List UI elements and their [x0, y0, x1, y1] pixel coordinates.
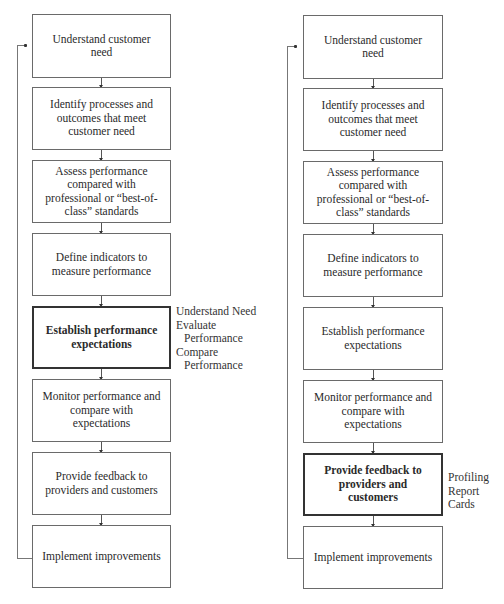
- right-feedback-loop-bottom: [287, 558, 303, 559]
- arrow-down-icon: [373, 79, 374, 88]
- right-feedback-loop-line: [287, 46, 288, 559]
- right-annotation: Profiling Report Cards: [448, 471, 504, 512]
- arrow-down-icon: [101, 369, 102, 379]
- right-loop-arrowhead-icon: [294, 45, 297, 48]
- right-step-monitor-performance: Monitor performance and compare with exp…: [303, 380, 443, 443]
- left-feedback-loop-bottom: [17, 558, 32, 559]
- left-step-define-indicators: Define indicators to measure performance: [32, 233, 171, 296]
- arrow-down-icon: [101, 223, 102, 233]
- arrow-down-icon: [101, 78, 102, 87]
- right-step-assess-performance: Assess performance compared with profess…: [303, 161, 443, 224]
- left-step-understand-need: Understand customer need: [32, 14, 171, 78]
- left-step-implement-improvements: Implement improvements: [32, 525, 171, 588]
- left-step-assess-performance: Assess performance compared with profess…: [32, 160, 171, 223]
- arrow-down-icon: [373, 516, 374, 526]
- right-step-define-indicators: Define indicators to measure performance: [303, 234, 443, 297]
- arrow-down-icon: [101, 296, 102, 306]
- arrow-down-icon: [373, 297, 374, 307]
- arrow-down-icon: [373, 224, 374, 234]
- arrow-down-icon: [373, 443, 374, 453]
- right-step-establish-expectations: Establish performance expectations: [303, 307, 443, 370]
- left-step-identify-processes: Identify processes and outcomes that mee…: [32, 87, 171, 150]
- left-annotation: Understand Need Evaluate Performance Com…: [176, 305, 256, 373]
- arrow-down-icon: [373, 370, 374, 380]
- arrow-down-icon: [101, 442, 102, 452]
- left-loop-arrowhead-icon: [24, 44, 27, 47]
- right-step-implement-improvements: Implement improvements: [303, 526, 443, 589]
- arrow-down-icon: [373, 151, 374, 161]
- left-step-establish-expectations: Establish performance expectations: [32, 306, 171, 369]
- right-step-understand-need: Understand customer need: [303, 15, 443, 79]
- right-step-identify-processes: Identify processes and outcomes that mee…: [303, 88, 443, 151]
- left-step-monitor-performance: Monitor performance and compare with exp…: [32, 379, 171, 442]
- arrow-down-icon: [101, 515, 102, 525]
- left-step-provide-feedback: Provide feedback to providers and custom…: [32, 452, 171, 515]
- right-step-provide-feedback: Provide feedback to providers and custom…: [303, 453, 443, 516]
- left-feedback-loop-line: [17, 45, 18, 559]
- arrow-down-icon: [101, 150, 102, 160]
